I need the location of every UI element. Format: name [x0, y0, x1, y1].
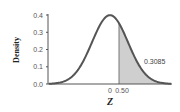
y-tick-label: 0.0: [33, 81, 43, 88]
x-tick-label-cutoff: 0.50: [115, 87, 129, 94]
y-axis-label: Density: [12, 37, 21, 63]
y-ticks: 0.4 0.3 0.2 0.1 0.0: [33, 12, 48, 88]
y-tick-label: 0.3: [33, 29, 43, 36]
y-tick-label: 0.1: [33, 63, 43, 70]
density-curve: [49, 15, 171, 84]
x-axis-label: Z: [106, 96, 113, 107]
normal-density-chart: 0.4 0.3 0.2 0.1 0.0 Density 0 0.50 Z 0.3…: [0, 0, 180, 112]
x-tick-label-zero: 0: [108, 87, 112, 94]
area-annotation: 0.3085: [144, 58, 166, 65]
y-tick-label: 0.4: [33, 12, 43, 19]
y-tick-label: 0.2: [33, 46, 43, 53]
